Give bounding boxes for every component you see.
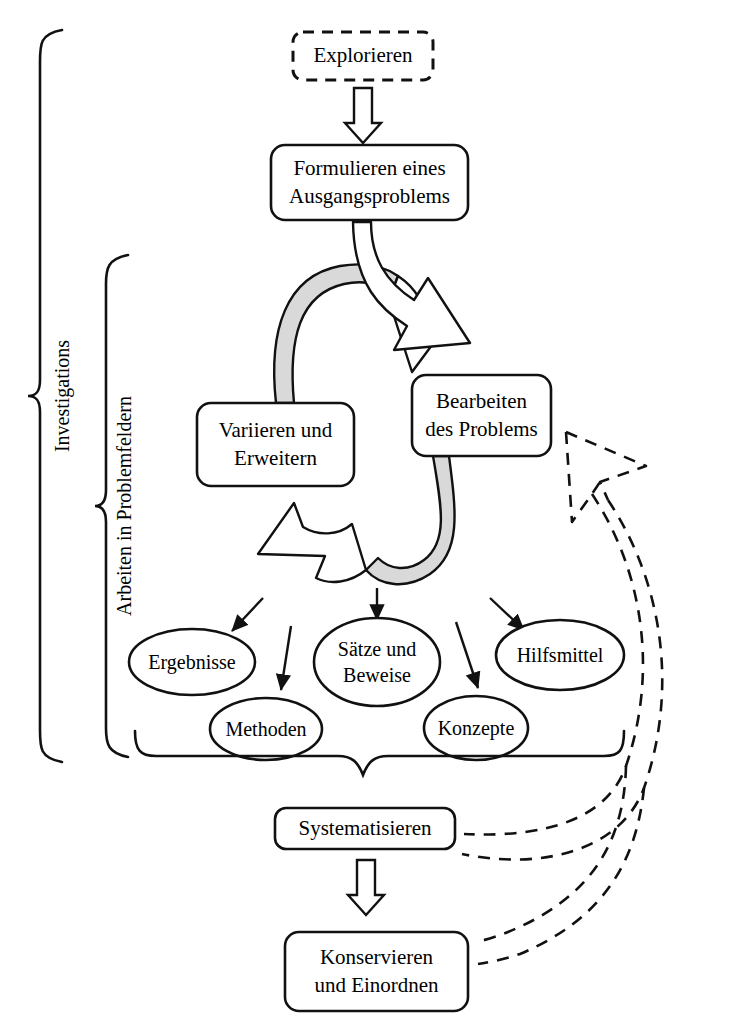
block-arrow-explorieren-to-formulieren: [345, 88, 381, 143]
diagram-canvas: [0, 0, 733, 1036]
node-bearbeiten-shape[interactable]: [412, 375, 551, 456]
node-systematisieren-shape[interactable]: [275, 808, 455, 849]
node-saetze-shape[interactable]: [314, 618, 440, 706]
node-variieren-shape[interactable]: [197, 403, 354, 486]
results-gather-brace: [135, 731, 624, 775]
node-ergebnisse-shape[interactable]: [129, 629, 255, 695]
thin-arrow-to-konzepte: [456, 622, 478, 688]
node-konservieren-shape[interactable]: [285, 932, 468, 1011]
block-arrow-cycle-to-variieren: [258, 503, 366, 582]
node-methoden-shape[interactable]: [210, 698, 322, 760]
block-arrow-systematisieren-to-konservieren: [348, 860, 384, 915]
thin-arrow-to-methoden: [281, 626, 291, 690]
brace-label-investigations: Investigations: [51, 340, 74, 452]
diagram-root: Explorieren Formulieren eines Ausgangspr…: [0, 0, 733, 1036]
thin-arrow-to-ergebnisse: [232, 598, 263, 631]
node-hilfsmittel-shape[interactable]: [496, 620, 624, 690]
node-formulieren-shape[interactable]: [271, 145, 468, 220]
brace-label-arbeiten-in-problemfeldern: Arbeiten in Problemfeldern: [113, 396, 136, 616]
cycle-ribbon-right-down: [366, 456, 455, 584]
node-konzepte-shape[interactable]: [424, 696, 528, 760]
node-explorieren-shape[interactable]: [293, 32, 433, 80]
thin-arrow-to-hilfsmittel: [490, 598, 524, 630]
